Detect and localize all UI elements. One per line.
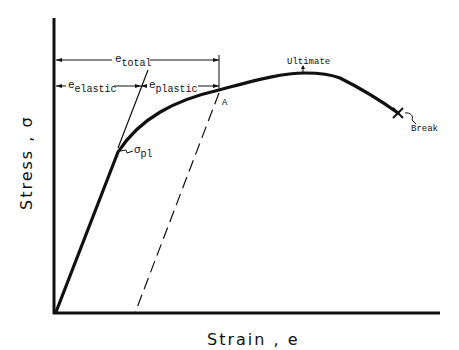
e-elastic-arrow-right bbox=[135, 84, 141, 88]
ultimate-label: Ultimate bbox=[287, 57, 330, 67]
diagram-svg: etotal eelastic eplastic A σpl Ultimate … bbox=[0, 0, 459, 350]
point-a-label: A bbox=[222, 98, 228, 108]
stress-strain-curve bbox=[56, 73, 398, 312]
y-axis-label: Stress , σ bbox=[17, 115, 36, 210]
e-total-label: etotal bbox=[115, 53, 152, 69]
proportional-limit-leader bbox=[120, 150, 133, 153]
e-elastic-label: eelastic bbox=[68, 79, 117, 95]
break-leader bbox=[405, 113, 416, 124]
break-label: Break bbox=[411, 124, 438, 134]
stress-strain-diagram: etotal eelastic eplastic A σpl Ultimate … bbox=[0, 0, 459, 350]
e-total-arrow-left bbox=[56, 58, 62, 62]
elastic-tangent-line bbox=[118, 70, 148, 148]
e-plastic-label: eplastic bbox=[149, 79, 198, 95]
unloading-dashed-line bbox=[135, 93, 219, 313]
proportional-limit-label: σpl bbox=[134, 144, 153, 160]
e-total-arrow-right bbox=[213, 58, 219, 62]
x-axis-label: Strain , e bbox=[207, 330, 300, 349]
e-plastic-arrow-right bbox=[213, 84, 219, 88]
break-marker bbox=[393, 108, 403, 118]
e-elastic-arrow-left bbox=[56, 84, 62, 88]
